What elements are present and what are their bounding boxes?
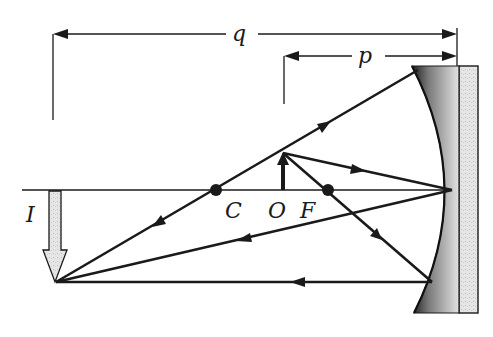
- focal-point: [322, 184, 334, 196]
- arrowhead-left-icon: [53, 29, 68, 39]
- arrowhead-icon: [236, 233, 252, 242]
- image-label: I: [25, 202, 36, 227]
- arrowhead-icon: [290, 277, 305, 287]
- arrowhead-right-icon: [442, 51, 457, 61]
- ray-to-vertex: [283, 153, 452, 190]
- arrowhead-icon: [350, 164, 366, 174]
- center-label: C: [225, 198, 242, 223]
- arrowhead-icon: [152, 215, 166, 227]
- focus-label: F: [299, 198, 316, 223]
- arrowhead-right-icon: [442, 29, 457, 39]
- rays: [56, 70, 452, 282]
- ray-from-vertex: [56, 190, 452, 282]
- center-of-curvature-point: [210, 184, 222, 196]
- arrowhead-left-icon: [284, 51, 299, 61]
- q-dimension: q: [53, 21, 457, 120]
- p-label: p: [358, 43, 372, 68]
- image-arrow: [43, 191, 67, 282]
- object-label: O: [268, 198, 286, 223]
- q-label: q: [232, 21, 246, 46]
- ray-arrowheads: [152, 121, 382, 287]
- arrow-down-icon: [43, 191, 67, 282]
- mirror-backing: [459, 66, 478, 313]
- ray-through-center: [56, 70, 418, 282]
- arrowhead-icon: [317, 121, 331, 133]
- concave-mirror-diagram: q p: [0, 0, 493, 337]
